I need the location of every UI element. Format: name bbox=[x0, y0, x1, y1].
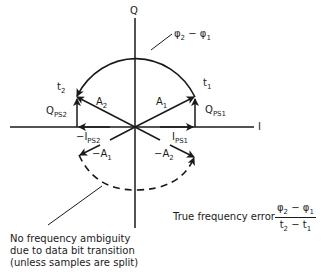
ambiguity-note-line-3: (unless samples are split) bbox=[10, 257, 138, 269]
phase-arc bbox=[77, 59, 195, 97]
dashed-arc bbox=[79, 155, 194, 190]
ambiguity-note-line-1: No frequency ambiguity bbox=[10, 233, 138, 245]
ambiguity-note: No frequency ambiguity due to data bit t… bbox=[10, 233, 138, 269]
vector-neg-a1-base bbox=[110, 127, 135, 140]
q-ps2-label: QPS2 bbox=[46, 105, 67, 119]
phase-leader-line bbox=[151, 34, 172, 50]
vector-neg-a2-base bbox=[135, 127, 160, 140]
q-axis-label: Q bbox=[130, 5, 138, 16]
a1-label: A1 bbox=[156, 96, 167, 110]
neg-a1-label: −A1 bbox=[92, 148, 112, 162]
ambiguity-note-line-2: due to data bit transition bbox=[10, 245, 138, 257]
formula-numerator: φ2 − φ1 bbox=[275, 202, 316, 218]
t2-label: t2 bbox=[57, 81, 65, 95]
frequency-error-formula: φ2 − φ1 t2 − t1 bbox=[275, 202, 316, 233]
formula-denominator: t2 − t1 bbox=[275, 218, 316, 233]
ambiguity-leader-line bbox=[48, 186, 102, 225]
frequency-error-label: True frequency error bbox=[173, 211, 275, 223]
i-ps1-label: IPS1 bbox=[172, 131, 188, 145]
neg-i-ps2-label: −IPS2 bbox=[76, 131, 100, 145]
phase-difference-label: φ2 − φ1 bbox=[174, 28, 211, 42]
neg-a2-label: −A2 bbox=[154, 148, 174, 162]
i-axis-label: I bbox=[258, 121, 261, 132]
q-ps1-label: QPS1 bbox=[205, 104, 226, 118]
t1-label: t1 bbox=[203, 77, 211, 91]
